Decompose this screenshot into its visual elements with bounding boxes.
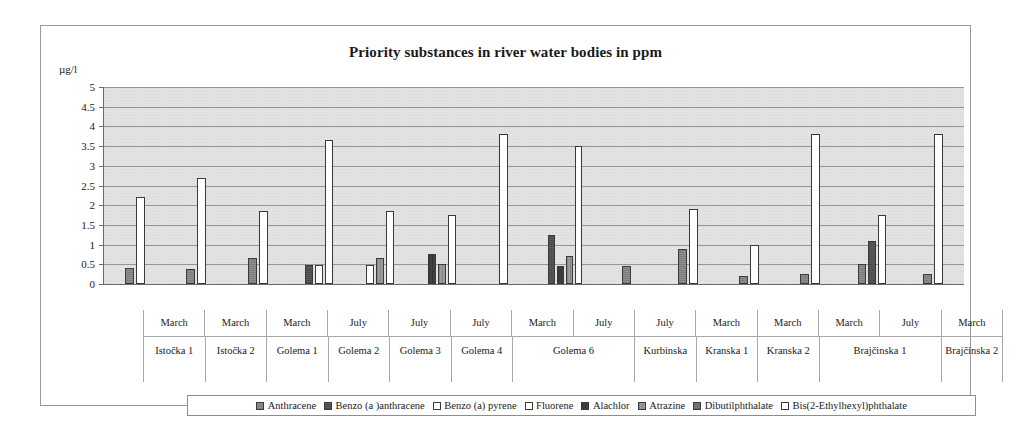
x-axis-site-cell: Golema 2 [329,337,391,382]
bar [811,134,820,284]
bar [557,266,564,284]
y-axis-tick-mark [99,245,104,246]
y-axis-tick-mark [99,284,104,285]
y-axis-tick-label: 0.5 [61,258,95,270]
y-axis-tick-label: 4 [61,120,95,132]
x-axis-month-cell: March [267,310,328,337]
x-axis-month-cell: July [389,310,450,337]
legend-label: Bis(2-Ethylhexyl)phthalate [793,400,907,411]
bar [934,134,943,284]
bar [800,274,809,284]
legend-label: Anthracene [268,400,316,411]
legend-item[interactable]: Fluorene [525,400,574,411]
legend-item[interactable]: Benzo (a) pyrene [433,400,517,411]
y-axis-tick-label: 2.5 [61,180,95,192]
y-axis-tick-mark [99,146,104,147]
legend-swatch [581,402,589,410]
y-axis-tick-mark [99,107,104,108]
x-axis-site-cell: Kranska 2 [758,337,820,382]
bar-group [411,87,472,284]
bar [248,258,257,284]
x-axis-month-cell: March [512,310,573,337]
bar [739,276,748,284]
bar-group [657,87,718,284]
x-axis-month-row: MarchMarchMarchJulyJulyJulyMarchJulyJuly… [143,310,1003,337]
x-axis-month-cell: March [942,310,1003,337]
x-axis-site-cell: Brajčinska 2 [942,337,1004,382]
y-axis-tick-label: 3 [61,160,95,172]
x-axis-month-cell: July [451,310,512,337]
legend-swatch [433,402,441,410]
legend-item[interactable]: Anthracene [256,400,316,411]
bar-group [534,87,595,284]
x-axis-site-cell: Golema 6 [513,337,635,382]
y-axis-tick-label: 3.5 [61,140,95,152]
y-axis-tick-mark [99,87,104,88]
y-axis-tick-label: 2 [61,199,95,211]
bar [678,249,687,284]
bar [386,211,394,284]
legend-label: Alachlor [593,400,630,411]
x-axis-site-cell: Kranska 1 [697,337,759,382]
bar-group [780,87,841,284]
bar [376,258,384,284]
bar-group [165,87,226,284]
x-axis-month-cell: March [696,310,757,337]
legend-item[interactable]: Alachlor [581,400,629,411]
legend-item[interactable]: Dibutilphthalate [693,400,773,411]
legend-swatch [324,402,332,410]
bar [366,265,374,284]
bar [858,264,866,284]
legend-label: Atrazine [649,400,685,411]
legend-item[interactable]: Benzo (a )anthracene [324,400,425,411]
legend-label: Benzo (a) pyrene [444,400,516,411]
bar-group [718,87,779,284]
bar [325,140,333,284]
y-axis-tick-mark [99,186,104,187]
x-axis-site-cell: Golema 1 [267,337,329,382]
bar [448,215,456,284]
bar [566,256,573,284]
legend-swatch [638,402,646,410]
bar-group [104,87,165,284]
chart-frame: Priority substances in river water bodie… [40,25,971,406]
bar-series-container [104,87,964,284]
x-axis-month-cell: July [328,310,389,337]
bar [575,146,582,284]
bar [548,235,555,284]
bar-group [841,87,902,284]
y-axis-unit-label: µg/l [59,63,77,75]
bar [259,211,268,284]
chart-title: Priority substances in river water bodie… [41,44,970,61]
bar [689,209,698,284]
y-axis-tick-mark [99,166,104,167]
bar-group [350,87,411,284]
legend-label: Dibutilphthalate [705,400,773,411]
x-axis-site-cell: Golema 4 [452,337,514,382]
x-axis-site-cell: Brajčinska 1 [820,337,942,382]
legend-label: Benzo (a )anthracene [336,400,425,411]
plot-area [103,87,964,285]
bar [622,266,631,284]
bar [878,215,886,284]
legend-label: Fluorene [536,400,573,411]
bar-group [903,87,964,284]
bar [125,268,134,284]
legend-swatch [693,402,701,410]
y-axis-tick-mark [99,264,104,265]
legend-swatch [525,402,533,410]
bar-group [288,87,349,284]
x-axis-site-cell: Istočka 2 [206,337,268,382]
y-axis-tick-label: 5 [61,81,95,93]
bar-group [595,87,656,284]
bar [136,197,145,284]
y-axis-tick-mark [99,225,104,226]
y-axis-tick-label: 1 [61,239,95,251]
legend-item[interactable]: Bis(2-Ethylhexyl)phthalate [781,400,907,411]
x-axis-month-cell: March [819,310,880,337]
bar [438,264,446,284]
x-axis-month-cell: July [574,310,635,337]
bar [923,274,932,284]
legend-item[interactable]: Atrazine [638,400,686,411]
x-axis-site-cell: Istočka 1 [143,337,206,382]
